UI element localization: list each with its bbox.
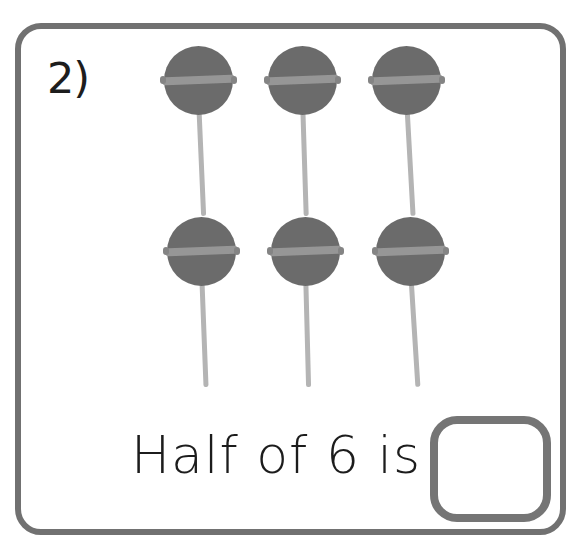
lollipop-candy [271, 217, 340, 286]
lollipop-band-nub-right [335, 76, 341, 84]
lollipop-band-nub-right [443, 247, 449, 255]
lollipop-band [266, 75, 339, 86]
lollipop-band-nub-right [439, 76, 445, 84]
lollipop-icon [166, 217, 238, 387]
question-prompt-text: Half of 6 is [131, 429, 421, 481]
lollipop-icon [163, 46, 235, 216]
lollipop-band [374, 246, 447, 257]
lollipop-band [165, 246, 238, 257]
lollipop-stick [408, 269, 420, 387]
lollipop-icon [270, 217, 342, 387]
worksheet-question-card: 2) [15, 23, 566, 535]
prompt-row: Half of 6 is [21, 407, 560, 537]
question-number-label: 2) [47, 57, 89, 100]
lollipop-candy [376, 217, 445, 286]
lollipop-band [162, 75, 235, 86]
lollipop-candy [164, 46, 233, 115]
lollipop-band-nub-right [231, 76, 237, 84]
lollipop-stick [303, 269, 311, 387]
lollipop-band-nub-left [160, 76, 166, 84]
lollipop-stick [199, 269, 209, 387]
lollipop-candy [372, 46, 441, 115]
lollipop-band-nub-right [234, 247, 240, 255]
lollipop-icon [267, 46, 339, 216]
lollipop-band-nub-left [264, 76, 270, 84]
lollipop-candy [268, 46, 337, 115]
lollipop-stick [300, 98, 309, 216]
lollipop-band-nub-left [267, 247, 273, 255]
lollipop-band-nub-left [372, 247, 378, 255]
lollipop-candy [167, 217, 236, 286]
lollipop-band-nub-right [338, 247, 344, 255]
lollipop-stick [196, 98, 206, 216]
lollipop-band-nub-left [163, 247, 169, 255]
lollipop-stick [404, 98, 416, 216]
lollipop-band [370, 75, 443, 86]
lollipop-band-nub-left [368, 76, 374, 84]
answer-input-box[interactable] [430, 416, 551, 522]
lollipop-icon [371, 46, 443, 216]
lollipop-band [269, 246, 342, 257]
lollipop-icon [375, 217, 447, 387]
